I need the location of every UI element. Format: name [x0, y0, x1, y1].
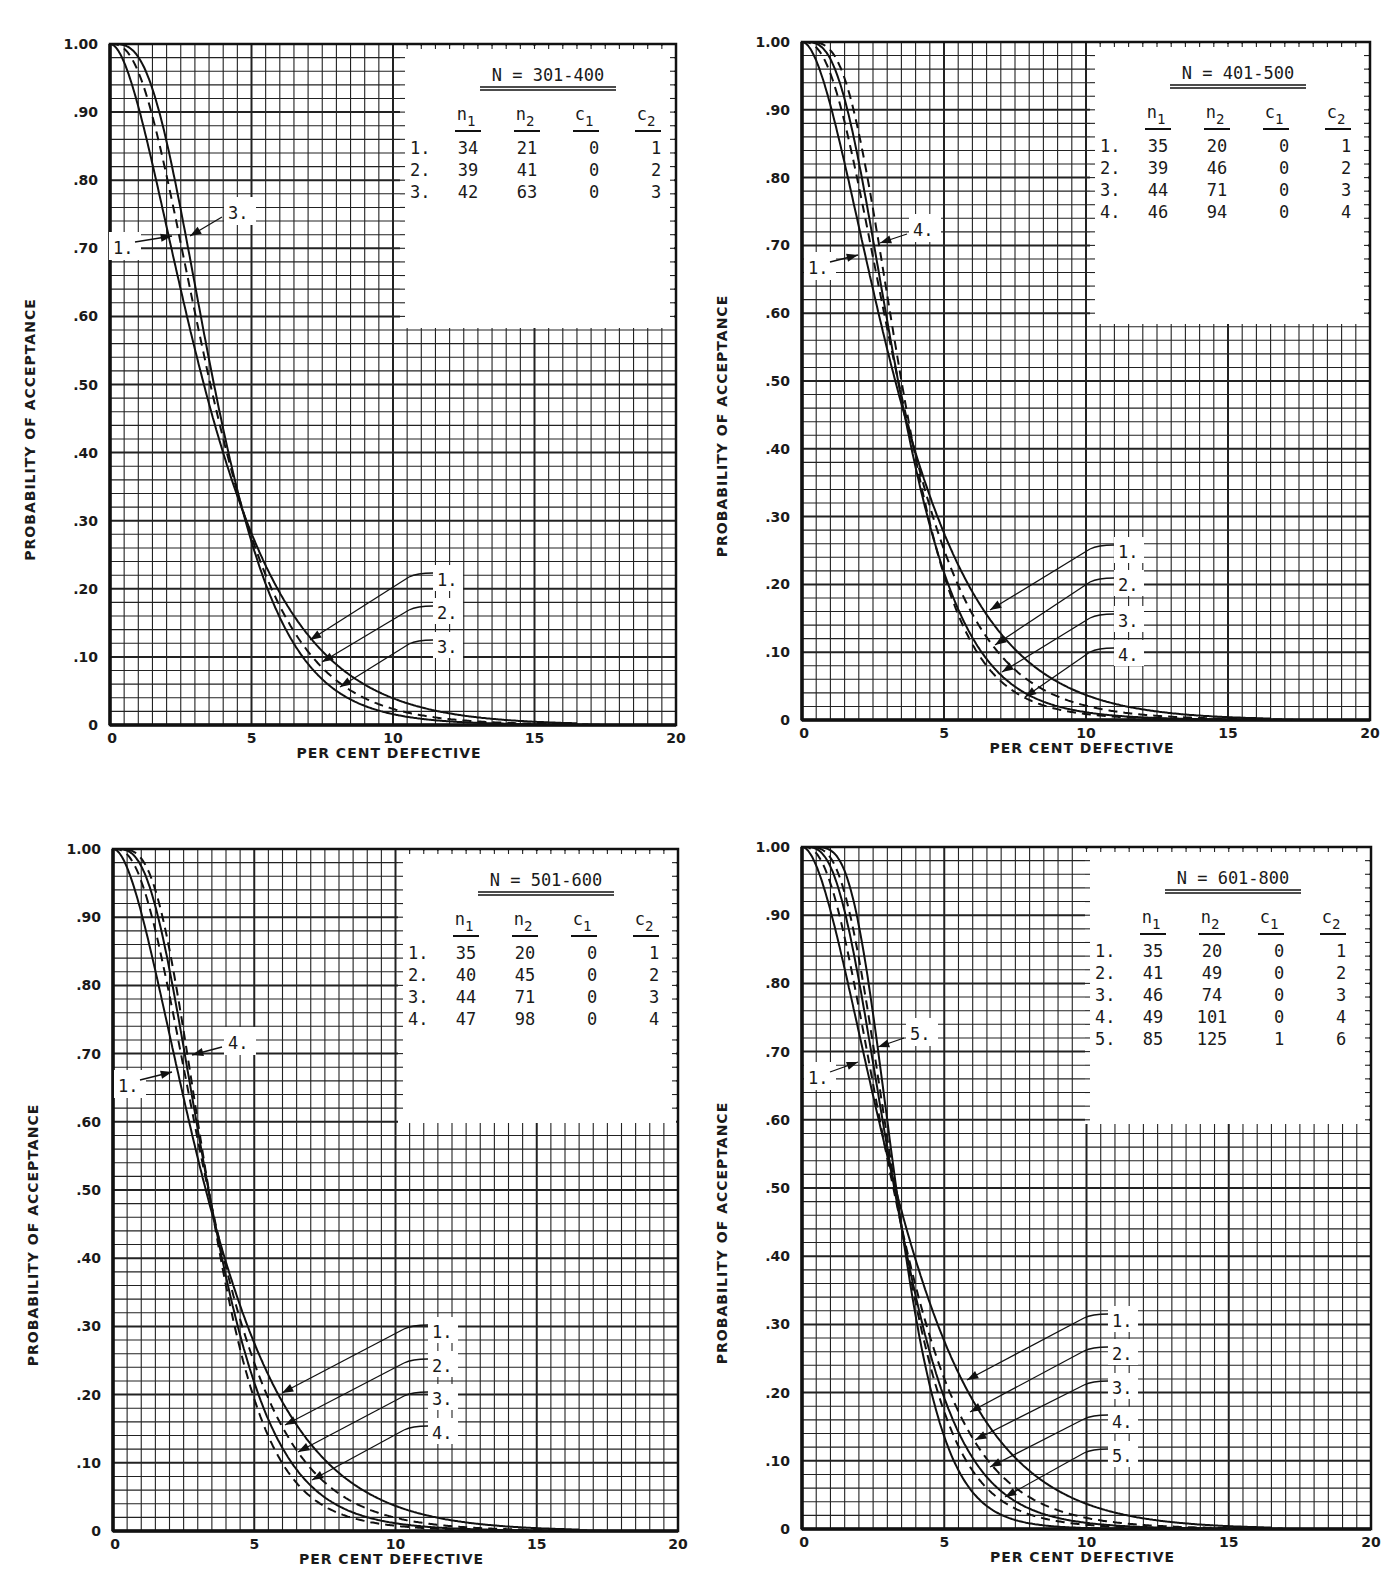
y-axis-ticks: 0.10.20.30.40.50.60.70.80.901.00 — [66, 841, 101, 1539]
table-cell: 0 — [1279, 180, 1289, 200]
table-cell: 3 — [651, 182, 661, 202]
svg-text:.90: .90 — [765, 907, 790, 923]
svg-text:.10: .10 — [76, 1455, 101, 1471]
curve-label: 3. — [1112, 1378, 1132, 1398]
svg-text:.70: .70 — [76, 1046, 101, 1062]
row-label: 1. — [408, 943, 428, 963]
table-cell: 39 — [458, 160, 478, 180]
row-label: 4. — [1100, 202, 1120, 222]
svg-text:20: 20 — [1360, 725, 1380, 741]
curve-label: 1. — [808, 1068, 828, 1088]
table-cell: 74 — [1202, 985, 1222, 1005]
table-cell: 4 — [1341, 202, 1351, 222]
table-cell: 34 — [458, 138, 478, 158]
y-axis-title: PROBABILITY OF ACCEPTANCE — [714, 1102, 730, 1364]
table-cell: 71 — [1207, 180, 1227, 200]
chart-canvas: 1.2.3.1.3.0.10.20.30.40.50.60.70.80.901.… — [0, 0, 1395, 1577]
table-cell: 40 — [456, 965, 476, 985]
curve-label: 5. — [910, 1024, 930, 1044]
table-cell: 2 — [649, 965, 659, 985]
svg-text:1.00: 1.00 — [755, 34, 790, 50]
curve-label: 2. — [432, 1356, 452, 1376]
curve-label: 1. — [1118, 542, 1138, 562]
svg-text:10: 10 — [1077, 1534, 1097, 1550]
curve-label: 1. — [113, 238, 133, 258]
table-cell: 39 — [1148, 158, 1168, 178]
curve-label: 4. — [913, 220, 933, 240]
table-cell: 1 — [1341, 136, 1351, 156]
table-cell: 46 — [1143, 985, 1163, 1005]
row-label: 4. — [408, 1009, 428, 1029]
row-label: 3. — [1100, 180, 1120, 200]
table-cell: 0 — [587, 1009, 597, 1029]
svg-text:.70: .70 — [73, 240, 98, 256]
curve-label: 3. — [228, 203, 248, 223]
svg-text:.60: .60 — [765, 305, 790, 321]
row-label: 2. — [408, 965, 428, 985]
svg-text:.30: .30 — [765, 509, 790, 525]
plan-table-bg — [1090, 44, 1368, 324]
curve-label: 2. — [437, 603, 457, 623]
x-axis-title: PER CENT DEFECTIVE — [296, 745, 481, 761]
x-axis-title: PER CENT DEFECTIVE — [989, 740, 1174, 756]
y-axis-ticks: 0.10.20.30.40.50.60.70.80.901.00 — [755, 839, 790, 1537]
plan-table-title: N = 601-800 — [1177, 868, 1290, 888]
table-cell: 20 — [1202, 941, 1222, 961]
svg-text:0: 0 — [780, 712, 790, 728]
table-cell: 46 — [1207, 158, 1227, 178]
x-axis-ticks: 05101520 — [799, 1534, 1381, 1550]
table-cell: 1 — [1274, 1029, 1284, 1049]
row-label: 2. — [1095, 963, 1115, 983]
x-axis-ticks: 05101520 — [110, 1536, 688, 1552]
curve-label: 2. — [1112, 1344, 1132, 1364]
svg-text:.20: .20 — [76, 1387, 101, 1403]
svg-text:1.00: 1.00 — [66, 841, 101, 857]
table-cell: 0 — [1274, 963, 1284, 983]
svg-text:1.00: 1.00 — [63, 36, 98, 52]
svg-text:.80: .80 — [765, 975, 790, 991]
curve-label: 1. — [808, 258, 828, 278]
svg-text:.50: .50 — [765, 373, 790, 389]
svg-text:.90: .90 — [765, 102, 790, 118]
table-cell: 47 — [456, 1009, 476, 1029]
table-cell: 0 — [1279, 158, 1289, 178]
curve-label: 1. — [1112, 1311, 1132, 1331]
svg-text:.20: .20 — [765, 576, 790, 592]
table-cell: 63 — [517, 182, 537, 202]
svg-text:15: 15 — [527, 1536, 546, 1552]
x-axis-ticks: 05101520 — [799, 725, 1380, 741]
table-cell: 0 — [589, 138, 599, 158]
table-cell: 1 — [1336, 941, 1346, 961]
svg-text:5: 5 — [939, 725, 949, 741]
y-axis-ticks: 0.10.20.30.40.50.60.70.80.901.00 — [63, 36, 98, 733]
table-cell: 2 — [651, 160, 661, 180]
curve-label: 3. — [432, 1389, 452, 1409]
row-label: 3. — [410, 182, 430, 202]
table-cell: 4 — [649, 1009, 659, 1029]
table-cell: 1 — [651, 138, 661, 158]
table-cell: 2 — [1336, 963, 1346, 983]
svg-text:.60: .60 — [765, 1112, 790, 1128]
svg-text:0: 0 — [88, 717, 98, 733]
table-cell: 0 — [1279, 202, 1289, 222]
chart-panel-N401-500: 1.2.3.4.1.4.0.10.20.30.40.50.60.70.80.90… — [714, 34, 1380, 756]
table-cell: 6 — [1336, 1029, 1346, 1049]
svg-text:5: 5 — [247, 730, 257, 746]
svg-text:.90: .90 — [73, 104, 98, 120]
table-cell: 35 — [1143, 941, 1163, 961]
svg-text:.40: .40 — [765, 441, 790, 457]
svg-text:.70: .70 — [765, 237, 790, 253]
svg-text:.80: .80 — [73, 172, 98, 188]
table-cell: 42 — [458, 182, 478, 202]
svg-text:10: 10 — [1076, 725, 1096, 741]
curve-label: 1. — [437, 570, 457, 590]
table-cell: 41 — [1143, 963, 1163, 983]
table-cell: 0 — [587, 987, 597, 1007]
x-axis-title: PER CENT DEFECTIVE — [990, 1549, 1175, 1565]
svg-text:.10: .10 — [73, 649, 98, 665]
svg-text:.10: .10 — [765, 644, 790, 660]
svg-text:.20: .20 — [73, 581, 98, 597]
curve-label: 1. — [432, 1322, 452, 1342]
y-axis-title: PROBABILITY OF ACCEPTANCE — [25, 1104, 41, 1366]
table-cell: 0 — [1274, 1007, 1284, 1027]
